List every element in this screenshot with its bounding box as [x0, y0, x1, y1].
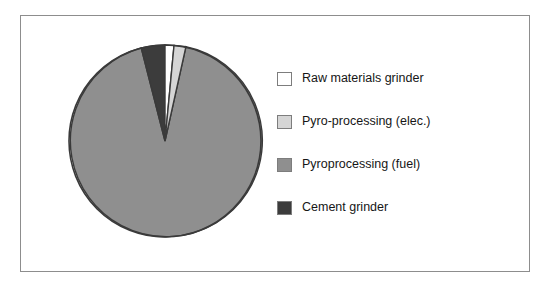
legend-swatch-cement-grinder: [277, 201, 292, 215]
legend-item-raw-materials-grinder: Raw materials grinder: [277, 57, 507, 100]
legend-label-pyro-processing-elec: Pyro-processing (elec.): [302, 115, 431, 128]
legend-item-cement-grinder: Cement grinder: [277, 186, 507, 229]
legend-label-cement-grinder: Cement grinder: [302, 201, 388, 214]
legend-item-pyroprocessing-fuel: Pyroprocessing (fuel): [277, 143, 507, 186]
legend-item-pyro-processing-elec: Pyro-processing (elec.): [277, 100, 507, 143]
chart-legend: Raw materials grinder Pyro-processing (e…: [277, 57, 507, 229]
legend-swatch-raw-materials-grinder: [277, 72, 292, 86]
legend-label-raw-materials-grinder: Raw materials grinder: [302, 72, 424, 85]
legend-swatch-pyroprocessing-fuel: [277, 158, 292, 172]
legend-swatch-pyro-processing-elec: [277, 115, 292, 129]
pie-chart-figure: Raw materials grinder Pyro-processing (e…: [0, 0, 548, 286]
legend-label-pyroprocessing-fuel: Pyroprocessing (fuel): [302, 158, 420, 171]
pie-chart: [62, 38, 268, 244]
plot-area: Raw materials grinder Pyro-processing (e…: [0, 0, 548, 286]
